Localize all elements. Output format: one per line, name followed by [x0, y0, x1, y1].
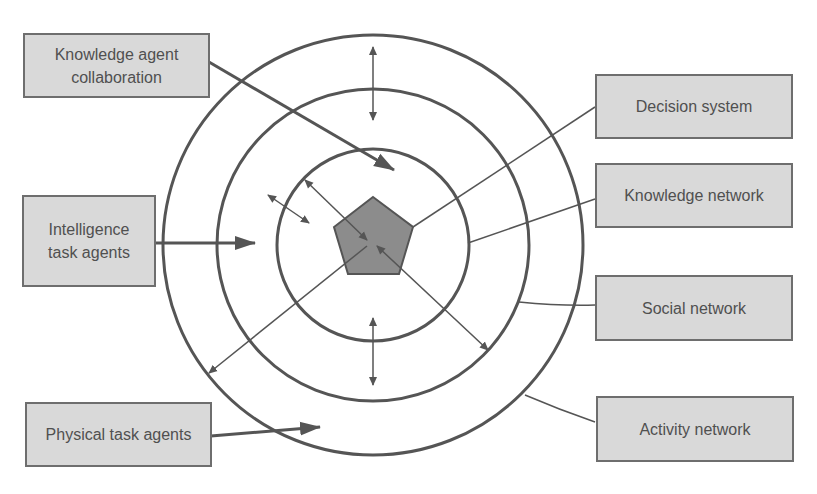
social-network-connector [519, 302, 595, 305]
decision-system-label: Decision system [636, 95, 752, 118]
knowledge-agent-collaboration-line2: collaboration [71, 66, 162, 89]
diagonal-arrow-lower-right [377, 246, 488, 350]
knowledge-network-label: Knowledge network [624, 184, 764, 207]
activity-network-connector [525, 395, 595, 422]
knowledge-network-connector [468, 199, 595, 243]
physical-task-agents-box: Physical task agents [25, 402, 212, 467]
physical-agents-arrow [211, 427, 320, 436]
diagonal-arrow-lower-left [209, 246, 367, 373]
intelligence-task-agents-line1: Intelligence [49, 218, 130, 241]
social-network-box: Social network [595, 275, 793, 341]
knowledge-agent-collaboration-line1: Knowledge agent [55, 43, 179, 66]
knowledge-network-box: Knowledge network [595, 163, 793, 228]
decision-system-box: Decision system [595, 74, 793, 139]
knowledge-collaboration-arrow [209, 62, 394, 170]
activity-network-box: Activity network [596, 396, 794, 462]
physical-task-agents-label: Physical task agents [46, 423, 192, 446]
intelligence-task-agents-box: Intelligence task agents [22, 195, 156, 287]
knowledge-agent-collaboration-box: Knowledge agent collaboration [23, 33, 210, 98]
social-network-label: Social network [642, 297, 746, 320]
activity-network-label: Activity network [639, 418, 750, 441]
intelligence-task-agents-line2: task agents [48, 241, 130, 264]
